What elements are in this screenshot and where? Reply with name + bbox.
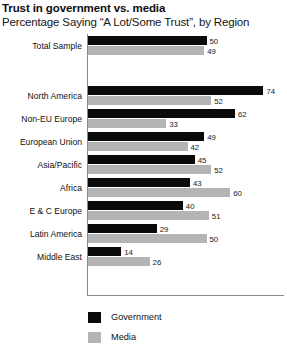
bar-media: [88, 96, 211, 105]
bar-group: 7452: [88, 86, 287, 109]
bar-group: 1426: [88, 247, 287, 270]
legend-label-media: Media: [111, 332, 136, 342]
bar-row: Middle East1426: [0, 247, 287, 270]
legend-label-government: Government: [111, 312, 162, 322]
chart-legend: Government Media: [88, 307, 278, 347]
bar-row: Total Sample5049: [0, 36, 287, 59]
bar-value-label: 52: [214, 166, 223, 175]
bar-gov: [88, 224, 157, 233]
bar-media: [88, 142, 188, 151]
bar-value-label: 49: [207, 133, 216, 142]
bar-group: 4942: [88, 132, 287, 155]
x-axis-line: [87, 295, 284, 296]
bar-value-label: 45: [198, 156, 207, 165]
bar-gov: [88, 36, 207, 45]
bar-gov: [88, 155, 195, 164]
bar-value-label: 29: [160, 225, 169, 234]
bar-gov: [88, 132, 204, 141]
bar-media: [88, 165, 211, 174]
chart-figure: Trust in government vs. media Percentage…: [0, 2, 287, 357]
category-label: Asia/Pacific: [0, 160, 82, 170]
category-label: North America: [0, 91, 82, 101]
bar-row: Non-EU Europe6233: [0, 109, 287, 132]
bar-gov: [88, 247, 121, 256]
bar-row: E & C Europe4051: [0, 201, 287, 224]
category-label: Total Sample: [0, 41, 82, 51]
bar-row: Asia/Pacific4552: [0, 155, 287, 178]
bar-value-label: 51: [212, 212, 221, 221]
bar-value-label: 62: [238, 110, 247, 119]
chart-title: Trust in government vs. media: [2, 2, 287, 15]
legend-item-media: Media: [88, 327, 278, 347]
bar-value-label: 52: [214, 97, 223, 106]
category-label: Africa: [0, 183, 82, 193]
bar-group: 2950: [88, 224, 287, 247]
bar-row: Latin America2950: [0, 224, 287, 247]
bar-value-label: 60: [233, 189, 242, 198]
bar-gov: [88, 178, 190, 187]
bar-media: [88, 234, 207, 243]
bar-value-label: 50: [210, 37, 219, 46]
bar-media: [88, 257, 150, 266]
bar-value-label: 14: [124, 248, 133, 257]
category-label: Latin America: [0, 229, 82, 239]
bar-value-label: 74: [266, 87, 275, 96]
bar-row: European Union4942: [0, 132, 287, 155]
bar-group: 5049: [88, 36, 287, 59]
bar-media: [88, 188, 230, 197]
plot-area: Total Sample5049North America7452Non-EU …: [0, 34, 287, 301]
bar-value-label: 26: [153, 258, 162, 267]
legend-swatch-government-icon: [88, 312, 101, 323]
legend-swatch-media-icon: [88, 332, 101, 343]
bar-gov: [88, 201, 183, 210]
bar-value-label: 43: [193, 179, 202, 188]
bar-group: 4051: [88, 201, 287, 224]
bar-value-label: 42: [191, 143, 200, 152]
bar-value-label: 40: [186, 202, 195, 211]
bar-group: 4360: [88, 178, 287, 201]
category-label: Middle East: [0, 252, 82, 262]
bar-gov: [88, 109, 235, 118]
category-label: Non-EU Europe: [0, 114, 82, 124]
bar-value-label: 49: [207, 47, 216, 56]
bar-media: [88, 46, 204, 55]
bar-value-label: 33: [169, 120, 178, 129]
bar-group: 4552: [88, 155, 287, 178]
category-label: E & C Europe: [0, 206, 82, 216]
bar-row: North America7452: [0, 86, 287, 109]
bar-media: [88, 119, 166, 128]
bar-gov: [88, 86, 263, 95]
bar-group: 6233: [88, 109, 287, 132]
legend-item-government: Government: [88, 307, 278, 327]
chart-subtitle: Percentage Saying “A Lot/Some Trust”, by…: [2, 16, 287, 29]
bar-row: Africa4360: [0, 178, 287, 201]
bar-value-label: 50: [210, 235, 219, 244]
bar-media: [88, 211, 209, 220]
category-label: European Union: [0, 137, 82, 147]
